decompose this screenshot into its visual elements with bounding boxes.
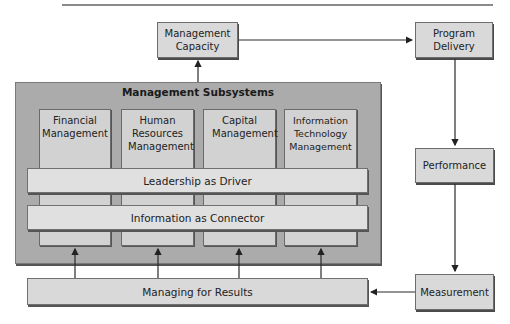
connector-arrows: [0, 0, 510, 324]
